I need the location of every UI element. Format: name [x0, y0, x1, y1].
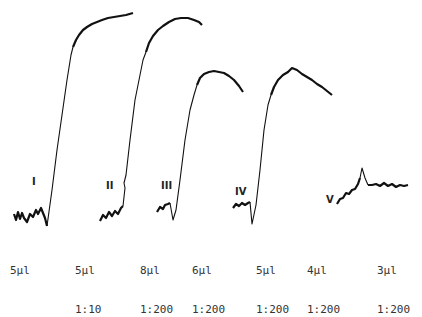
dose-dilution: 1:200	[256, 303, 289, 316]
dose-label-4: 6µl 1:200	[192, 238, 225, 317]
trace-IV	[233, 68, 332, 224]
trace-I	[14, 13, 133, 226]
dose-volume: 5µl	[75, 264, 102, 277]
trace-label-III: III	[161, 180, 172, 191]
trace-label-I: I	[32, 176, 36, 187]
dose-label-1: 5µl	[10, 238, 30, 316]
dose-label-5: 5µl 1:200	[256, 238, 289, 317]
trace-label-V: V	[326, 194, 334, 205]
trace-label-II: II	[106, 180, 113, 191]
dose-volume: 3µl	[377, 264, 410, 277]
trace-II	[100, 18, 202, 221]
trace-III	[157, 71, 243, 220]
trace-label-IV: IV	[235, 186, 246, 197]
dose-volume: 5µl	[256, 264, 289, 277]
dose-dilution: 1:200	[377, 303, 410, 316]
dose-dilution: 1:10	[75, 303, 102, 316]
dose-label-2: 5µl 1:10	[75, 238, 102, 317]
trace-V	[337, 168, 408, 204]
dose-volume: 8µl	[140, 264, 173, 277]
dose-volume: 4µl	[307, 264, 340, 277]
dose-dilution: 1:200	[140, 303, 173, 316]
dose-dilution: 1:200	[192, 303, 225, 316]
dose-dilution: 1:200	[307, 303, 340, 316]
dose-label-7: 3µl 1:200	[377, 238, 410, 317]
dose-volume: 5µl	[10, 264, 30, 277]
dose-label-6: 4µl 1:200	[307, 238, 340, 317]
dose-label-3: 8µl 1:200	[140, 238, 173, 317]
dose-volume: 6µl	[192, 264, 225, 277]
